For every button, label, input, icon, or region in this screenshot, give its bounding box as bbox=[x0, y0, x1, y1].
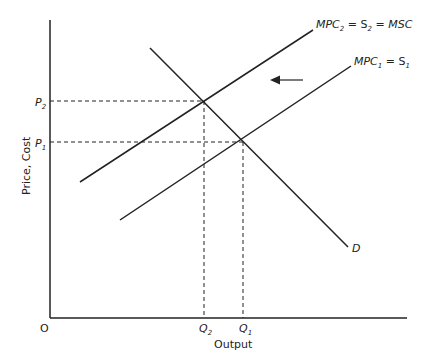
mpc2-label: MPC2 = S2​ = MSC bbox=[316, 18, 413, 33]
p1-label: P1 bbox=[35, 137, 46, 152]
p2-label: P2 bbox=[35, 96, 47, 111]
origin-label: O bbox=[40, 322, 49, 335]
x-axis-label: Output bbox=[214, 338, 253, 351]
mpc2-curve bbox=[80, 30, 313, 182]
mpc1-label: MPC1 = S1 bbox=[354, 55, 410, 70]
mpc1-curve bbox=[120, 66, 351, 220]
left-arrow-icon bbox=[270, 76, 280, 85]
diagram-canvas: MPC2 = S2​ = MSC MPC1 = S1 D P2 P1 Q2 Q1… bbox=[0, 0, 425, 363]
demand-label: D bbox=[352, 242, 360, 255]
q1-label: Q1 bbox=[239, 322, 252, 337]
y-axis-label: Price, Cost bbox=[20, 136, 33, 195]
q2-label: Q2 bbox=[199, 322, 213, 337]
demand-curve bbox=[150, 48, 348, 247]
